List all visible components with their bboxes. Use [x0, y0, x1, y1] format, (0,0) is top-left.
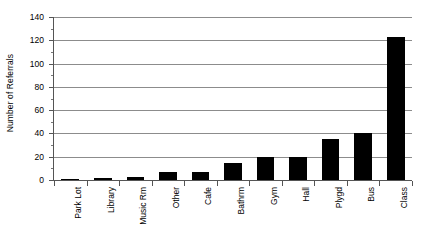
- x-axis-tickmark: [249, 181, 250, 186]
- x-label-slot: Bus: [347, 187, 380, 241]
- x-axis-tick-label: Gym: [270, 187, 279, 205]
- y-axis-tickmark: [49, 87, 53, 88]
- bar: [289, 157, 307, 180]
- y-axis-title-text: Number of Referrals: [5, 53, 15, 131]
- y-axis-tick-label: 100: [30, 59, 44, 68]
- x-axis-tick-label: Hall: [302, 187, 311, 202]
- x-axis-tick-label: Class: [400, 187, 409, 208]
- y-axis-tickmark: [49, 133, 53, 134]
- x-axis-tickmark: [54, 181, 55, 186]
- x-axis-tickmark: [379, 181, 380, 186]
- bar-slot: [249, 17, 282, 180]
- bar-slot: [379, 17, 412, 180]
- x-label-slot: Hall: [282, 187, 315, 241]
- y-axis-minor-tickmark: [51, 99, 53, 100]
- x-label-slot: Plygd: [314, 187, 347, 241]
- bar: [322, 139, 340, 180]
- y-axis-tickmark: [49, 64, 53, 65]
- y-axis-tick-label: 40: [35, 129, 44, 138]
- x-axis-tick-label: Plygd: [335, 187, 344, 208]
- x-label-slot: Music Rm: [119, 187, 152, 241]
- y-axis-minor-tickmark: [51, 168, 53, 169]
- bar: [257, 157, 275, 180]
- bar-chart-figure: Number of Referrals 020406080100120140 P…: [0, 0, 421, 241]
- x-label-slot: Other: [152, 187, 185, 241]
- y-axis-tick-label: 120: [30, 36, 44, 45]
- y-axis-tick-labels: 020406080100120140: [20, 17, 48, 180]
- bar: [387, 37, 405, 180]
- x-label-slot: Gym: [249, 187, 282, 241]
- bar-slot: [119, 17, 152, 180]
- x-label-slot: Bathrm: [217, 187, 250, 241]
- bar: [192, 172, 210, 180]
- bars-layer: [54, 17, 412, 180]
- x-axis-tickmarks: [54, 181, 412, 186]
- bar-slot: [87, 17, 120, 180]
- bar-slot: [54, 17, 87, 180]
- y-axis-minor-tickmark: [51, 145, 53, 146]
- y-axis-tick-label: 20: [35, 152, 44, 161]
- y-axis-tick-label: 140: [30, 13, 44, 22]
- y-axis-minor-tickmark: [51, 122, 53, 123]
- x-axis-tickmark: [87, 181, 88, 186]
- y-axis-tick-label: 0: [39, 176, 44, 185]
- x-axis-tick-label: Other: [172, 187, 181, 208]
- bar: [354, 133, 372, 180]
- bar-slot: [282, 17, 315, 180]
- y-axis-tickmark: [49, 110, 53, 111]
- bar-slot: [347, 17, 380, 180]
- x-label-slot: Park Lot: [54, 187, 87, 241]
- y-axis-minor-tickmark: [51, 29, 53, 30]
- y-axis-title: Number of Referrals: [0, 0, 20, 185]
- x-axis-tickmark: [217, 181, 218, 186]
- y-axis-tickmark: [49, 157, 53, 158]
- x-label-slot: Library: [87, 187, 120, 241]
- bar-slot: [217, 17, 250, 180]
- x-axis-tickmark: [152, 181, 153, 186]
- y-axis-minor-tickmark: [51, 52, 53, 53]
- x-axis-tick-label: Music Rm: [140, 187, 149, 225]
- bar: [159, 172, 177, 180]
- x-axis-tick-labels: Park LotLibraryMusic RmOtherCafeBathrmGy…: [54, 187, 412, 241]
- x-axis-tick-label: Library: [107, 187, 116, 213]
- x-axis-tick-label: Park Lot: [75, 187, 84, 219]
- x-axis-tickmark: [282, 181, 283, 186]
- x-axis-tick-label: Bathrm: [237, 187, 246, 214]
- x-axis-tickmark: [347, 181, 348, 186]
- y-axis-tickmark: [49, 17, 53, 18]
- y-axis-tickmark: [49, 40, 53, 41]
- x-axis-tick-label: Bus: [367, 187, 376, 202]
- bar-slot: [152, 17, 185, 180]
- x-label-slot: Class: [379, 187, 412, 241]
- x-axis-tickmark: [314, 181, 315, 186]
- x-axis-tickmark: [412, 181, 413, 186]
- y-axis-tick-label: 60: [35, 106, 44, 115]
- bar: [224, 163, 242, 180]
- bar-slot: [314, 17, 347, 180]
- bar-slot: [184, 17, 217, 180]
- plot-area: [54, 17, 412, 180]
- x-axis-tick-label: Cafe: [205, 187, 214, 205]
- y-axis-tick-label: 80: [35, 83, 44, 92]
- x-axis-tickmark: [119, 181, 120, 186]
- y-axis-minor-tickmark: [51, 75, 53, 76]
- x-axis-tickmark: [184, 181, 185, 186]
- x-label-slot: Cafe: [184, 187, 217, 241]
